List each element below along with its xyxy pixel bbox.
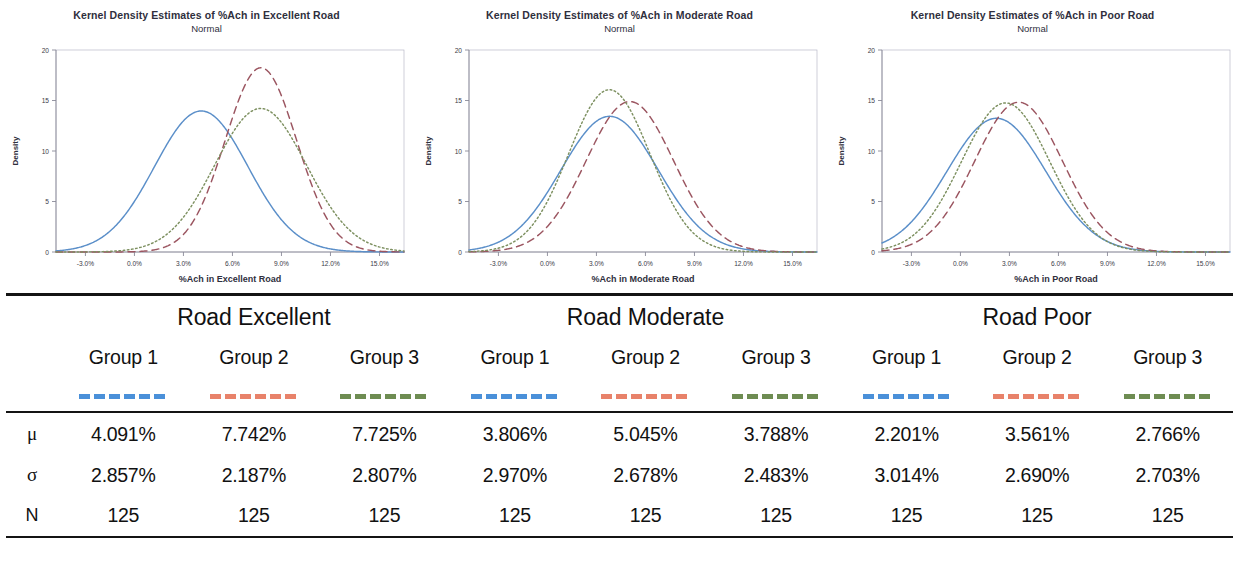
data-cell: 5.045% [580,414,711,455]
legend-swatch-row [6,378,1233,412]
svg-text:15.0%: 15.0% [783,260,802,267]
data-cell: 125 [972,496,1103,537]
road-header-row: Road Excellent Road Moderate Road Poor [6,297,1233,338]
data-cell: 2.703% [1102,455,1233,496]
legend-swatch-cell [319,378,450,412]
data-cell: 2.483% [711,455,842,496]
svg-text:15: 15 [42,97,50,104]
data-cell: 125 [1102,496,1233,537]
data-cell: 2.187% [189,455,320,496]
data-cell: 125 [450,496,581,537]
svg-text:9.0%: 9.0% [274,260,289,267]
data-cell: 7.742% [189,414,320,455]
svg-text:5: 5 [458,198,462,205]
road-header-poor: Road Poor [841,297,1233,338]
kde-plot-svg: 05101520-3.0%0.0%3.0%6.0%9.0%12.0%15.0%%… [826,40,1239,292]
road-header-spacer [6,297,58,338]
legend-swatch-icon [79,394,167,399]
data-cell: 125 [841,496,972,537]
legend-swatch-icon [863,394,951,399]
legend-swatch-cell [841,378,972,412]
legend-swatch-icon [340,394,428,399]
svg-text:20: 20 [868,47,876,54]
data-cell: 3.561% [972,414,1103,455]
data-cell: 125 [711,496,842,537]
svg-text:0: 0 [45,249,49,256]
legend-swatch-icon [732,394,820,399]
svg-text:Density: Density [11,136,20,165]
group-header-cell: Group 1 [58,338,189,378]
legend-swatch-icon [993,394,1081,399]
legend-swatch-icon [1124,394,1212,399]
svg-text:5: 5 [871,198,875,205]
group-header-cell: Group 2 [189,338,320,378]
svg-text:10: 10 [868,148,876,155]
svg-text:15.0%: 15.0% [1196,260,1215,267]
group-header-cell: Group 3 [319,338,450,378]
svg-text:20: 20 [42,47,50,54]
legend-swatch-cell [189,378,320,412]
svg-text:6.0%: 6.0% [225,260,240,267]
svg-text:15: 15 [868,97,876,104]
data-cell: 3.014% [841,455,972,496]
group-header-row: Group 1 Group 2 Group 3 Group 1 Group 2 … [6,338,1233,378]
legend-swatch-cell [450,378,581,412]
chart-title: Kernel Density Estimates of %Ach in Mode… [413,9,826,22]
group-header-cell: Group 2 [580,338,711,378]
chart-panel-moderate-road: Kernel Density Estimates of %Ach in Mode… [413,0,826,292]
data-cell: 125 [58,496,189,537]
svg-text:-3.0%: -3.0% [490,260,507,267]
swatch-spacer [6,378,58,412]
svg-text:0: 0 [458,249,462,256]
svg-text:3.0%: 3.0% [176,260,191,267]
data-cell: 2.970% [450,455,581,496]
kde-plot-svg: 05101520-3.0%0.0%3.0%6.0%9.0%12.0%15.0%%… [0,40,413,292]
svg-text:Density: Density [424,136,433,165]
chart-title: Kernel Density Estimates of %Ach in Exce… [0,9,413,22]
svg-text:20: 20 [455,47,463,54]
svg-text:5: 5 [45,198,49,205]
summary-statistics-table: Road Excellent Road Moderate Road Poor G… [0,293,1239,587]
chart-subtitle: Normal [826,23,1239,35]
svg-text:12.0%: 12.0% [1147,260,1166,267]
group-header-cell: Group 2 [972,338,1103,378]
row-label-mu: μ [6,414,58,455]
svg-text:10: 10 [42,148,50,155]
svg-text:-3.0%: -3.0% [903,260,920,267]
row-label-sigma: σ [6,455,58,496]
group-header-cell: Group 1 [450,338,581,378]
svg-text:0.0%: 0.0% [540,260,555,267]
data-cell: 125 [580,496,711,537]
road-header-excellent: Road Excellent [58,297,450,338]
road-header-moderate: Road Moderate [450,297,842,338]
svg-text:%Ach in Moderate Road: %Ach in Moderate Road [591,274,694,284]
data-cell: 3.788% [711,414,842,455]
data-cell: 2.857% [58,455,189,496]
plot-area: 05101520-3.0%0.0%3.0%6.0%9.0%12.0%15.0%%… [0,40,413,292]
table-rule-bottom [6,537,1233,539]
svg-text:6.0%: 6.0% [1051,260,1066,267]
legend-swatch-cell [972,378,1103,412]
svg-text:0.0%: 0.0% [127,260,142,267]
svg-text:3.0%: 3.0% [1002,260,1017,267]
legend-swatch-cell [580,378,711,412]
data-cell: 125 [319,496,450,537]
legend-swatch-icon [471,394,559,399]
svg-text:%Ach in Excellent Road: %Ach in Excellent Road [179,274,282,284]
svg-text:15.0%: 15.0% [370,260,389,267]
svg-text:10: 10 [455,148,463,155]
kde-charts-row: Kernel Density Estimates of %Ach in Exce… [0,0,1239,292]
data-cell: 2.690% [972,455,1103,496]
data-cell: 2.678% [580,455,711,496]
group-header-spacer [6,338,58,378]
table-row: μ 4.091% 7.742% 7.725% 3.806% 5.045% 3.7… [6,414,1233,455]
chart-panel-poor-road: Kernel Density Estimates of %Ach in Poor… [826,0,1239,292]
table-row: σ 2.857% 2.187% 2.807% 2.970% 2.678% 2.4… [6,455,1233,496]
svg-text:6.0%: 6.0% [638,260,653,267]
legend-swatch-cell [711,378,842,412]
svg-text:9.0%: 9.0% [1100,260,1115,267]
legend-swatch-cell [1102,378,1233,412]
svg-text:12.0%: 12.0% [321,260,340,267]
group-header-cell: Group 3 [1102,338,1233,378]
stats-table: Road Excellent Road Moderate Road Poor G… [6,293,1233,539]
